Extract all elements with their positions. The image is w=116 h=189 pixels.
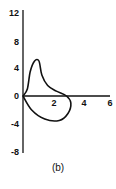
loop-curve bbox=[23, 59, 71, 120]
x-tick-label: 2 bbox=[51, 98, 56, 108]
chart-plot: 12 8 4 0 -4 -8 2 4 6 bbox=[0, 0, 116, 189]
y-tick-label: 4 bbox=[14, 63, 19, 73]
x-tick-label: 4 bbox=[81, 98, 86, 108]
y-tick-label: 8 bbox=[14, 37, 19, 47]
y-tick-label: -8 bbox=[11, 147, 19, 157]
x-tick-label: 6 bbox=[107, 98, 112, 108]
y-tick-label: -4 bbox=[11, 119, 19, 129]
y-tick-label: 12 bbox=[9, 8, 19, 18]
figure-caption: (b) bbox=[0, 162, 116, 173]
y-tick-label: 0 bbox=[14, 91, 19, 101]
